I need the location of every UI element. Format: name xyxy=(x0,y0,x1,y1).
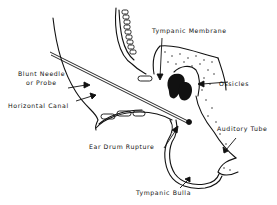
label-or-probe: or Probe xyxy=(26,79,57,86)
label-tympanic-bulla: Tympanic Bulla xyxy=(136,189,191,196)
label-auditory-tube: Auditory Tube xyxy=(217,125,267,132)
label-ossicles: Ossicles xyxy=(219,80,249,87)
stippled-tissue xyxy=(164,51,230,170)
ear-anatomy-diagram: Tympanic Membrane Blunt Needle or Probe … xyxy=(0,0,277,205)
cartilage-rings-upper xyxy=(122,10,136,54)
label-ear-drum-rupture: Ear Drum Rupture xyxy=(89,143,154,150)
upper-canal-wall xyxy=(116,8,146,74)
auditory-tube xyxy=(218,158,238,175)
label-tympanic-membrane: Tympanic Membrane xyxy=(152,27,227,34)
label-horizontal-canal: Horizontal Canal xyxy=(8,102,69,109)
label-blunt-needle: Blunt Needle xyxy=(18,70,65,77)
ossicles-shape xyxy=(168,74,193,101)
